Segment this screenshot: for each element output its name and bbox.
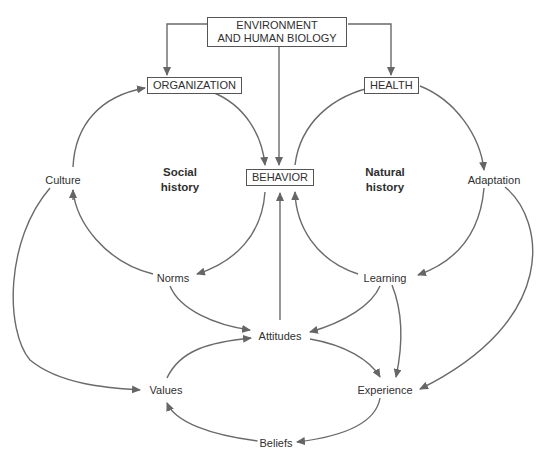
health-label: HEALTH [370,79,413,91]
natural-line1: Natural [365,165,405,180]
connector-lines [0,0,549,463]
node-learning: Learning [362,272,409,285]
behavior-label: BEHAVIOR [252,171,308,183]
organization-label: ORGANIZATION [153,79,236,91]
environment-label-line2: AND HUMAN BIOLOGY [213,32,341,45]
natural-history-label: Natural history [365,165,405,195]
behavior-box: BEHAVIOR [246,169,314,186]
environment-label-line1: ENVIRONMENT [213,19,341,32]
node-adaptation: Adaptation [466,174,523,187]
health-box: HEALTH [364,77,419,94]
node-norms: Norms [155,272,191,285]
social-history-label: Social history [161,165,199,195]
node-beliefs: Beliefs [257,437,294,450]
node-culture: Culture [43,174,82,187]
environment-box: ENVIRONMENT AND HUMAN BIOLOGY [207,17,347,47]
organization-box: ORGANIZATION [147,77,242,94]
social-line1: Social [161,165,199,180]
node-attitudes: Attitudes [257,330,304,343]
node-experience: Experience [355,384,414,397]
natural-line2: history [365,180,405,195]
social-line2: history [161,180,199,195]
node-values: Values [148,384,185,397]
